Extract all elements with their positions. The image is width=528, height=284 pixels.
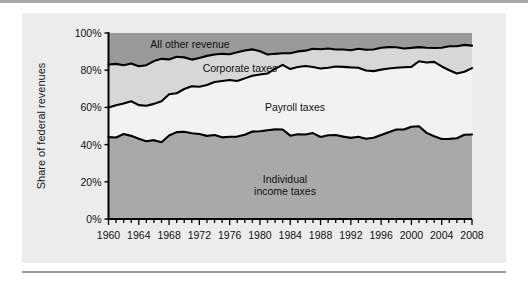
series-label-all-other-revenue: All other revenue bbox=[150, 38, 230, 50]
x-tick-label-1980: 1980 bbox=[248, 229, 272, 241]
y-tick-label-80: 80% bbox=[80, 64, 101, 76]
y-tick-labels-group: 0%20%40%60%80%100% bbox=[75, 27, 109, 225]
x-tick-label-1960: 1960 bbox=[97, 229, 121, 241]
stacked-area-chart: 0%20%40%60%80%100% 196019641968197219761… bbox=[0, 0, 528, 284]
series-label-line: All other revenue bbox=[150, 38, 230, 50]
y-tick-label-60: 60% bbox=[80, 101, 101, 113]
x-tick-label-2004: 2004 bbox=[430, 229, 454, 241]
y-tick-label-0: 0% bbox=[86, 213, 101, 225]
x-tick-label-1988: 1988 bbox=[309, 229, 333, 241]
x-tick-label-2000: 2000 bbox=[400, 229, 424, 241]
figure-root: 0%20%40%60%80%100% 196019641968197219761… bbox=[0, 0, 528, 284]
x-tick-label-1996: 1996 bbox=[369, 229, 393, 241]
x-tick-labels-group: 1960196419681972197619801984198819921996… bbox=[97, 219, 484, 241]
series-label-line: income taxes bbox=[254, 185, 316, 197]
x-tick-label-2008: 2008 bbox=[460, 229, 484, 241]
y-tick-label-40: 40% bbox=[80, 139, 101, 151]
series-label-individual-income-taxes: Individualincome taxes bbox=[254, 173, 316, 197]
chart-svg: 0%20%40%60%80%100% 196019641968197219761… bbox=[0, 0, 528, 284]
y-axis-title: Share of federal revenues bbox=[35, 62, 47, 189]
x-tick-label-1992: 1992 bbox=[339, 229, 363, 241]
series-label-line: Corporate taxes bbox=[203, 62, 278, 74]
series-label-payroll-taxes: Payroll taxes bbox=[265, 101, 325, 113]
x-tick-label-1968: 1968 bbox=[157, 229, 181, 241]
x-tick-label-1964: 1964 bbox=[127, 229, 151, 241]
series-label-line: Individual bbox=[263, 173, 307, 185]
x-tick-label-1972: 1972 bbox=[188, 229, 212, 241]
series-label-line: Payroll taxes bbox=[265, 101, 325, 113]
x-tick-label-1976: 1976 bbox=[218, 229, 242, 241]
x-tick-label-1984: 1984 bbox=[279, 229, 303, 241]
series-label-corporate-taxes: Corporate taxes bbox=[203, 62, 278, 74]
y-tick-label-100: 100% bbox=[75, 27, 102, 39]
y-tick-label-20: 20% bbox=[80, 176, 101, 188]
